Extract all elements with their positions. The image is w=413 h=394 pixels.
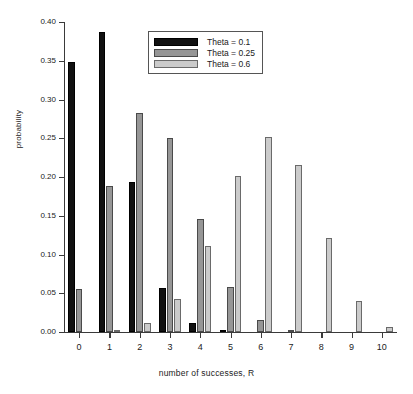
bar (114, 330, 121, 332)
bar (99, 32, 106, 332)
x-axis-tick-label: 7 (279, 342, 303, 352)
x-axis-tick-label: 0 (67, 342, 91, 352)
x-axis-tick (170, 333, 171, 338)
legend-swatch-icon (154, 60, 198, 68)
legend-entry-label: Theta = 0.25 (207, 48, 255, 58)
legend-entry: Theta = 0.6 (154, 58, 255, 69)
x-axis-tick (261, 333, 262, 338)
bar (189, 323, 196, 332)
bar (136, 113, 143, 332)
x-axis-tick (352, 333, 353, 338)
x-axis-tick (231, 333, 232, 338)
x-axis-tick (291, 333, 292, 338)
legend-entry-label: Theta = 0.6 (207, 59, 250, 69)
y-axis-tick-label: 0.15 (26, 211, 56, 220)
y-axis-tick-label: 0.30 (26, 95, 56, 104)
bar (235, 176, 242, 332)
bar (288, 330, 295, 332)
x-axis-tick-label: 9 (340, 342, 364, 352)
y-axis-tick-label: 0.05 (26, 288, 56, 297)
x-axis-tick-label: 6 (249, 342, 273, 352)
bar (197, 219, 204, 332)
binomial-distribution-chart: probability number of successes, R 0.000… (0, 0, 413, 394)
bar (68, 62, 75, 332)
x-axis-tick-label: 2 (128, 342, 152, 352)
x-axis-tick-label: 5 (219, 342, 243, 352)
chart-legend: Theta = 0.1 Theta = 0.25 Theta = 0.6 (148, 31, 263, 74)
x-axis-tick (109, 333, 110, 338)
bar (205, 246, 212, 332)
legend-entry: Theta = 0.25 (154, 47, 255, 58)
y-axis-tick-label: 0.35 (26, 56, 56, 65)
legend-entry-label: Theta = 0.1 (207, 37, 250, 47)
bar (356, 301, 363, 332)
x-axis-tick-label: 1 (97, 342, 121, 352)
bar (265, 137, 272, 332)
x-axis-tick-label: 8 (309, 342, 333, 352)
bar (76, 289, 83, 332)
x-axis-tick-label: 4 (188, 342, 212, 352)
y-axis-tick (59, 332, 64, 333)
bar (386, 327, 393, 332)
bar (106, 186, 113, 332)
bar (257, 320, 264, 332)
x-axis-tick (382, 333, 383, 338)
bar (174, 299, 181, 332)
x-axis-tick-label: 10 (370, 342, 394, 352)
bar (167, 138, 174, 332)
x-axis-tick (321, 333, 322, 338)
legend-swatch-icon (154, 49, 198, 57)
x-axis-tick (79, 333, 80, 338)
y-axis-tick-label: 0.20 (26, 172, 56, 181)
x-axis-tick-label: 3 (158, 342, 182, 352)
y-axis-tick-label: 0.10 (26, 250, 56, 259)
x-axis-tick (200, 333, 201, 338)
legend-entry: Theta = 0.1 (154, 36, 255, 47)
bar (326, 238, 333, 332)
y-axis-tick-label: 0.25 (26, 133, 56, 142)
x-axis-label: number of successes, R (0, 368, 413, 378)
legend-swatch-icon (154, 38, 198, 46)
bar (220, 330, 227, 332)
bar (144, 323, 151, 332)
y-axis-tick-label: 0.00 (26, 327, 56, 336)
bar (227, 287, 234, 332)
x-axis-tick (140, 333, 141, 338)
bar (295, 165, 302, 332)
bar (159, 288, 166, 332)
bar (129, 182, 136, 332)
y-axis-tick-label: 0.40 (26, 17, 56, 26)
